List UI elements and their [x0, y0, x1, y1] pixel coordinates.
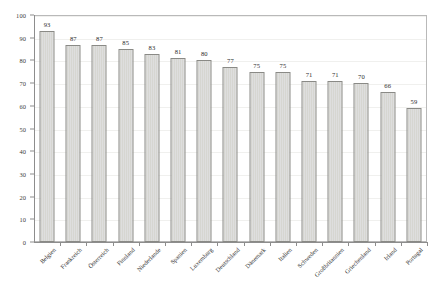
category-label: Belgien [38, 246, 57, 265]
y-tick-label: 70 [19, 80, 26, 87]
category-label: Frankreich [59, 246, 83, 270]
bar-value-label: 75 [253, 62, 260, 69]
category-label: Luxemburg [189, 246, 215, 272]
y-tick-label: 50 [19, 125, 26, 132]
bar-value-label: 71 [306, 71, 313, 78]
bar-slot: 87 [60, 15, 86, 242]
bar-value-label: 81 [175, 48, 182, 55]
bar-value-label: 83 [148, 44, 155, 51]
y-tick-label: 80 [19, 57, 26, 64]
bar-slot: 75 [270, 15, 296, 242]
category-label: Portugal [404, 246, 424, 266]
bar-value-label: 77 [227, 57, 234, 64]
y-tick-label: 90 [19, 34, 26, 41]
category-label: Deutschland [213, 246, 240, 273]
bar[interactable] [275, 72, 290, 242]
bar-slot: 80 [191, 15, 217, 242]
bar-value-label: 87 [96, 35, 103, 42]
y-tick-label: 40 [19, 148, 26, 155]
category-label: Irland [382, 246, 398, 262]
y-tick-label: 0 [23, 239, 26, 246]
category-label: Dänemark [243, 246, 266, 269]
bar[interactable] [40, 31, 55, 242]
bar[interactable] [406, 108, 421, 242]
bar[interactable] [354, 83, 369, 242]
bar-slot: 75 [244, 15, 270, 242]
y-tick-label: 10 [19, 216, 26, 223]
bar[interactable] [249, 72, 264, 242]
category-label: Italien [276, 246, 292, 262]
y-tick-label: 30 [19, 170, 26, 177]
bar[interactable] [197, 60, 212, 242]
bar[interactable] [171, 58, 186, 242]
category-labels: BelgienFrankreichÖsterreichFinnlandNiede… [34, 246, 427, 296]
category-label: Österreich [86, 246, 110, 270]
bar[interactable] [223, 67, 238, 242]
y-tick-label: 20 [19, 193, 26, 200]
bar-value-label: 70 [358, 73, 365, 80]
bar-chart: 0102030405060708090100 93878785838180777… [0, 0, 442, 296]
y-tick-label: 60 [19, 102, 26, 109]
category-label: Griechenland [343, 246, 372, 275]
bar-slot: 85 [113, 15, 139, 242]
bar-value-label: 85 [122, 39, 129, 46]
x-tick-mark [427, 242, 428, 246]
bar[interactable] [328, 81, 343, 242]
bar-value-label: 59 [410, 98, 417, 105]
bars-series: 938787858381807775757171706659 [34, 15, 427, 242]
bar-slot: 70 [348, 15, 374, 242]
y-tick-label: 100 [16, 12, 26, 19]
category-label: Niederlande [135, 246, 162, 273]
bar[interactable] [380, 92, 395, 242]
category-label: Schweden [296, 246, 319, 269]
bar-slot: 66 [375, 15, 401, 242]
bar-value-label: 87 [70, 35, 77, 42]
y-axis-tick-labels: 0102030405060708090100 [0, 0, 34, 296]
bar-value-label: 71 [332, 71, 339, 78]
bar[interactable] [144, 54, 159, 242]
bar[interactable] [302, 81, 317, 242]
bar[interactable] [92, 45, 107, 242]
bar-slot: 83 [139, 15, 165, 242]
bar-slot: 81 [165, 15, 191, 242]
category-label: Finnland [115, 246, 136, 267]
category-label: Spanien [169, 246, 188, 265]
bar-value-label: 75 [279, 62, 286, 69]
bar[interactable] [118, 49, 133, 242]
bar-slot: 93 [34, 15, 60, 242]
bar-slot: 77 [217, 15, 243, 242]
bar-slot: 71 [322, 15, 348, 242]
bar-slot: 71 [296, 15, 322, 242]
x-axis [34, 242, 428, 243]
bar-slot: 87 [86, 15, 112, 242]
bar-slot: 59 [401, 15, 427, 242]
bar[interactable] [66, 45, 81, 242]
bar-value-label: 93 [44, 21, 51, 28]
bar-value-label: 66 [384, 82, 391, 89]
bar-value-label: 80 [201, 50, 208, 57]
